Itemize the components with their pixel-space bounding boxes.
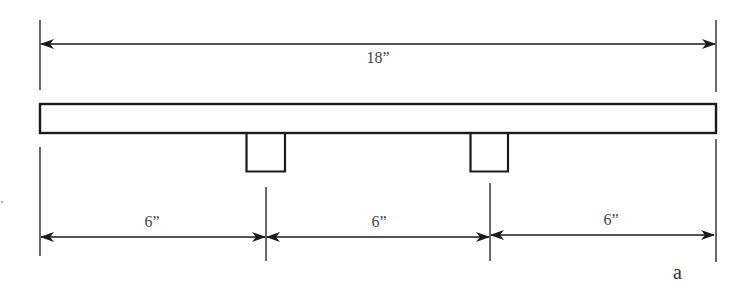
segment-dimension-label-1: 6” — [144, 214, 159, 230]
segment-dimension-label-2: 6” — [371, 214, 386, 230]
segment-dimension-label-3: 6” — [603, 212, 618, 228]
stray-mark — [1, 201, 3, 203]
bottom-extension-lines — [40, 139, 716, 262]
beam-diagram — [0, 0, 752, 284]
figure-label: a — [673, 262, 682, 282]
beam — [40, 104, 716, 133]
support-left — [247, 133, 286, 172]
overall-dimension-label: 18” — [366, 50, 389, 66]
support-right — [471, 133, 509, 172]
